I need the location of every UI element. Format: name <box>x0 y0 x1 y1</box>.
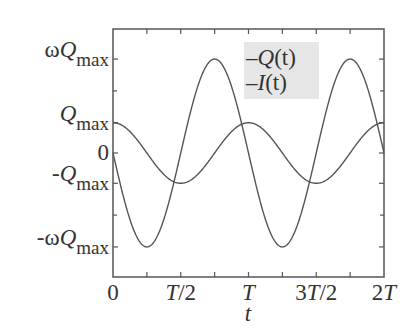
x-tick-label: 3T/2 <box>295 281 337 304</box>
x-axis-title: t <box>245 301 251 327</box>
legend-item-i: –I(t) <box>246 71 287 94</box>
x-tick-label: 0 <box>107 281 119 304</box>
y-tick-label: -Qmax <box>52 162 109 185</box>
y-tick-label: 0 <box>98 141 110 164</box>
y-tick-label: ωQmax <box>45 38 109 61</box>
legend-line-q: – <box>246 45 258 70</box>
legend-line-i: – <box>246 70 258 95</box>
y-tick-label: -ωQmax <box>37 226 109 249</box>
x-tick-label: T/2 <box>165 281 196 304</box>
legend-var-q: Q <box>258 45 275 70</box>
legend: –Q(t) –I(t) <box>244 42 319 99</box>
legend-item-q: –Q(t) <box>246 46 296 69</box>
y-tick-label: Qmax <box>60 102 109 125</box>
legend-arg-i: (t) <box>265 70 287 95</box>
legend-arg-q: (t) <box>274 45 296 70</box>
x-tick-label: 2T <box>372 281 396 304</box>
